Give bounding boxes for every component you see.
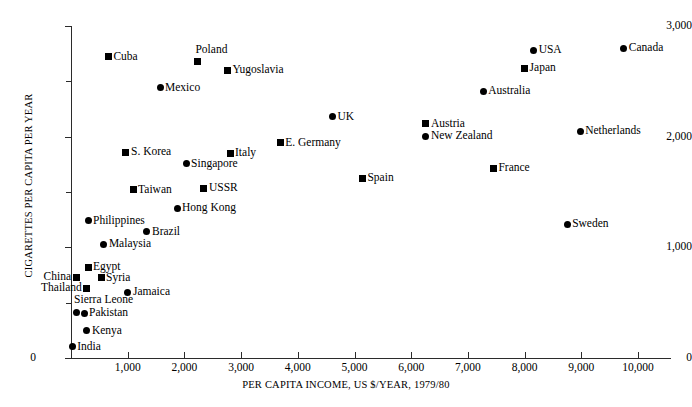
circle-marker-icon [620,45,627,52]
y-axis-line [71,26,72,359]
square-marker-icon [490,165,497,172]
square-marker-icon [224,67,231,74]
x-tick [468,352,469,358]
x-tick [638,352,639,358]
x-tick-label: 2,000 [154,361,214,373]
data-point-label: Spain [367,172,393,184]
square-marker-icon [200,185,207,192]
data-point-label: Philippines [93,215,145,227]
data-point-label: USA [539,44,562,56]
data-point-label: Singapore [191,158,238,170]
x-tick [525,352,526,358]
data-point-label: Japan [530,62,556,74]
x-tick-label: 5,000 [325,361,385,373]
circle-marker-icon [577,128,584,135]
data-point-label: Malaysia [109,238,151,250]
circle-marker-icon [564,221,571,228]
data-point-label: S. Korea [131,146,171,158]
square-marker-icon [277,139,284,146]
data-point-label: Sierra Leone [74,294,133,306]
y-tick-label: 1,000 [636,241,692,253]
y-tick [65,247,71,248]
data-point-label: New Zealand [431,130,493,142]
data-point-label: Canada [629,42,663,54]
x-tick [581,352,582,358]
y-tick [65,358,71,359]
x-tick-label: 7,000 [438,361,498,373]
x-tick [184,352,185,358]
data-point-label: Brazil [152,226,180,238]
y-tick [65,26,71,27]
y-tick-minor [66,81,71,82]
data-point-label: Pakistan [89,307,128,319]
data-point-label: Austria [431,118,465,130]
data-point-label: Cuba [113,51,137,63]
circle-marker-icon [329,113,336,120]
data-point-label: Netherlands [585,125,641,137]
square-marker-icon [85,264,92,271]
x-tick [298,352,299,358]
x-tick-label: 10,000 [608,361,668,373]
x-tick [241,352,242,358]
x-tick-label: 9,000 [551,361,611,373]
circle-marker-icon [480,88,487,95]
data-point-label: Thailand [41,282,82,294]
data-point-label: Yugoslavia [232,64,283,76]
data-point-label: Jamaica [133,286,170,298]
y-tick [65,137,71,138]
y-tick-label: 2,000 [636,131,692,143]
y-tick-label: 3,000 [636,20,692,32]
square-marker-icon [194,58,201,65]
square-marker-icon [83,285,90,292]
data-point-label: Italy [235,147,256,159]
circle-marker-icon [81,310,88,317]
data-point-label: Taiwan [138,184,172,196]
data-point-label: UK [337,111,354,123]
data-point-label: Poland [195,44,227,56]
square-marker-icon [105,53,112,60]
square-marker-icon [98,274,105,281]
circle-marker-icon [73,309,80,316]
square-marker-icon [227,150,234,157]
data-point-label: Mexico [165,82,200,94]
square-marker-icon [73,274,80,281]
x-tick [128,352,129,358]
x-axis-title: PER CAPITA INCOME, US $/YEAR, 1979/80 [0,379,692,390]
circle-marker-icon [85,217,92,224]
y-axis-title: CIGARETTES PER CAPITA PER YEAR [23,76,34,296]
x-tick-label: 6,000 [381,361,441,373]
x-tick-label: 1,000 [98,361,158,373]
data-point-label: USSR [209,182,238,194]
scatter-chart: 01,0002,0003,000 01,0002,0003,0004,0005,… [0,0,692,407]
data-point-label: Syria [106,272,130,284]
circle-marker-icon [157,84,164,91]
y-tick-minor [66,303,71,304]
x-tick-label: 0 [3,351,63,363]
circle-marker-icon [422,133,429,140]
x-tick [411,352,412,358]
circle-marker-icon [530,47,537,54]
data-point-label: India [77,341,101,353]
square-marker-icon [130,186,137,193]
circle-marker-icon [143,228,150,235]
x-tick-label: 4,000 [268,361,328,373]
x-tick-label: 3,000 [211,361,271,373]
circle-marker-icon [83,327,90,334]
y-tick-minor [66,192,71,193]
circle-marker-icon [174,205,181,212]
circle-marker-icon [183,160,190,167]
x-tick [355,352,356,358]
circle-marker-icon [69,343,76,350]
data-point-label: E. Germany [285,137,341,149]
square-marker-icon [422,120,429,127]
square-marker-icon [359,175,366,182]
x-tick-label: 8,000 [495,361,555,373]
data-point-label: Sweden [572,218,608,230]
data-point-label: Australia [488,85,530,97]
data-point-label: Hong Kong [182,202,236,214]
data-point-label: France [498,162,529,174]
x-axis-line [71,358,671,359]
square-marker-icon [521,65,528,72]
square-marker-icon [122,149,129,156]
circle-marker-icon [100,241,107,248]
